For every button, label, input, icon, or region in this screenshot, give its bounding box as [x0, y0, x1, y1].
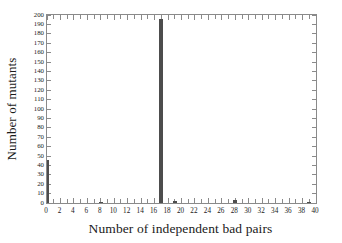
x-axis-tick — [94, 15, 95, 19]
y-axis-tick — [312, 80, 316, 81]
x-axis-tick — [60, 198, 61, 203]
y-axis-tick-label: 20 — [4, 180, 44, 187]
y-axis-tick — [47, 90, 51, 91]
y-axis-tick — [47, 43, 51, 44]
x-axis-tick — [295, 199, 296, 203]
x-axis-tick — [87, 15, 88, 20]
x-axis-tick — [242, 199, 243, 203]
x-axis-tick — [215, 15, 216, 19]
y-axis-tick — [312, 109, 316, 110]
y-axis-tick-label: 140 — [4, 67, 44, 74]
y-axis-tick — [47, 62, 51, 63]
x-axis-tick — [134, 15, 135, 19]
x-axis-tick — [120, 15, 121, 19]
y-axis-tick — [312, 146, 316, 147]
x-axis-tick — [262, 15, 263, 20]
x-axis-tick — [107, 199, 108, 203]
x-axis-tick — [201, 15, 202, 19]
y-axis-tick — [312, 43, 316, 44]
x-axis-tick — [316, 15, 317, 20]
x-axis-tick — [302, 15, 303, 20]
x-axis-tick — [275, 198, 276, 203]
x-axis-tick — [134, 199, 135, 203]
y-axis-tick — [312, 33, 316, 34]
x-axis-tick — [73, 15, 74, 20]
x-axis-tick — [242, 15, 243, 19]
y-axis-tick-label: 180 — [4, 29, 44, 36]
y-axis-tick — [47, 99, 51, 100]
bar — [159, 19, 163, 203]
x-axis-tick — [114, 15, 115, 20]
y-axis-tick — [47, 156, 51, 157]
y-axis-tick-label: 0 — [4, 199, 44, 206]
x-axis-tick — [181, 198, 182, 203]
x-axis-tick — [80, 15, 81, 19]
y-axis-tick — [47, 33, 51, 34]
x-axis-tick — [289, 15, 290, 20]
bar — [173, 201, 177, 203]
y-axis-tick-label: 70 — [4, 133, 44, 140]
y-axis-tick-label: 120 — [4, 86, 44, 93]
x-axis-tick — [282, 199, 283, 203]
x-axis-tick — [141, 15, 142, 20]
x-axis-tick — [221, 198, 222, 203]
x-axis-tick — [188, 199, 189, 203]
x-axis-tick — [87, 198, 88, 203]
x-axis-tick — [208, 15, 209, 20]
y-axis-tick — [47, 52, 51, 53]
x-axis-tick — [302, 198, 303, 203]
histogram-figure: Number of mutants 0102030405060708090100… — [0, 0, 342, 243]
x-axis-tick — [248, 15, 249, 20]
y-axis-tick — [312, 118, 316, 119]
x-axis-tick-labels: 0246810121416182022242628303234363840 — [46, 207, 317, 217]
plot-area — [47, 15, 316, 203]
x-axis-tick — [154, 15, 155, 20]
y-axis-tick — [312, 156, 316, 157]
x-axis-tick — [127, 15, 128, 20]
x-axis-tick — [67, 15, 68, 19]
x-axis-tick — [228, 15, 229, 19]
x-axis-tick — [47, 15, 48, 20]
y-axis-tick — [47, 127, 51, 128]
x-axis-tick — [295, 15, 296, 19]
x-axis-tick — [309, 15, 310, 19]
x-axis-tick — [221, 15, 222, 20]
x-axis-tick — [168, 198, 169, 203]
y-axis-tick — [312, 174, 316, 175]
y-axis-tick-label: 200 — [4, 11, 44, 18]
x-axis-tick — [154, 198, 155, 203]
y-axis-tick — [312, 90, 316, 91]
y-axis-tick — [312, 137, 316, 138]
x-axis-tick — [208, 198, 209, 203]
x-axis-tick — [255, 15, 256, 19]
x-axis-tick — [67, 199, 68, 203]
x-axis-tick — [80, 199, 81, 203]
x-axis-tick — [141, 198, 142, 203]
x-axis-tick — [215, 199, 216, 203]
x-axis-tick — [194, 15, 195, 20]
y-axis-tick — [47, 109, 51, 110]
y-axis-tick — [312, 184, 316, 185]
x-axis-tick — [147, 15, 148, 19]
x-axis-tick — [282, 15, 283, 19]
x-axis-tick — [201, 199, 202, 203]
x-axis-tick — [60, 15, 61, 20]
y-axis-tick — [312, 127, 316, 128]
x-axis-tick — [53, 15, 54, 19]
y-axis-tick-label: 100 — [4, 105, 44, 112]
y-axis-tick-label: 50 — [4, 152, 44, 159]
x-axis-tick — [168, 15, 169, 20]
x-axis-tick — [262, 198, 263, 203]
bar — [99, 202, 103, 203]
y-axis-tick-label: 80 — [4, 123, 44, 130]
x-axis-tick — [268, 199, 269, 203]
x-axis-tick — [107, 15, 108, 19]
y-axis-tick — [47, 24, 51, 25]
x-axis-tick — [114, 198, 115, 203]
y-axis-tick-label: 190 — [4, 20, 44, 27]
y-axis-tick — [47, 15, 51, 16]
y-axis-tick-label: 130 — [4, 76, 44, 83]
x-axis-tick — [268, 15, 269, 19]
bar — [307, 202, 311, 203]
y-axis-tick-label: 170 — [4, 39, 44, 46]
